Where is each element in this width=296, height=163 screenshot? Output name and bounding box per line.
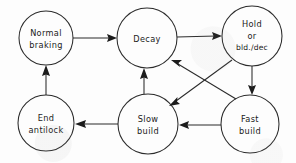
node-label-line-2: braking (29, 40, 62, 50)
arrow-head-icon (179, 121, 189, 129)
node-label-line-2: build (137, 126, 159, 136)
edge-normal-braking-to-decay (73, 34, 117, 42)
node-label-line-1: Fast (241, 114, 259, 124)
edge-hold-to-fast-build (248, 66, 256, 95)
arrow-head-icon (248, 85, 256, 95)
node-slow-build[interactable]: Slow build (118, 94, 178, 154)
arrow-head-icon (212, 32, 222, 40)
node-end-antilock[interactable]: End antilock (18, 95, 74, 151)
node-label-line-1: End (38, 113, 55, 123)
edge-end-antilock-to-normal-braking (42, 65, 50, 95)
state-diagram-svg: Normal braking Decay Hold or bld./dec En… (0, 0, 296, 163)
state-diagram-canvas: Normal braking Decay Hold or bld./dec En… (0, 0, 296, 163)
arrow-head-icon (42, 65, 50, 76)
arrow-head-icon (107, 34, 117, 42)
node-label-line-2: build (239, 126, 261, 136)
edge-fast-build-to-decay (171, 60, 236, 99)
node-label-line-1: Hold (242, 19, 262, 29)
edge-fast-build-to-slow-build (179, 121, 221, 129)
node-hold-or-bld-dec[interactable]: Hold or bld./dec (222, 6, 282, 66)
node-normal-braking[interactable]: Normal braking (19, 11, 73, 65)
edge-slow-build-to-end-antilock (75, 120, 118, 128)
arrow-head-icon (140, 68, 148, 79)
node-label-line-1: Normal (30, 28, 62, 38)
edge-decay-to-hold (177, 32, 222, 40)
node-label-line-2: or (247, 31, 256, 41)
edge-hold-to-slow-build (169, 60, 232, 106)
node-circle[interactable] (221, 95, 279, 153)
node-circle[interactable] (19, 11, 73, 65)
edge-line (176, 60, 232, 101)
node-decay[interactable]: Decay (117, 8, 177, 68)
node-fast-build[interactable]: Fast build (221, 95, 279, 153)
node-label-line-3: bld./dec (236, 43, 268, 52)
node-label-line-2: antilock (28, 125, 63, 135)
node-label-line-1: Slow (138, 114, 159, 124)
node-label-line-1: Decay (133, 34, 160, 44)
arrow-head-icon (75, 120, 86, 128)
edge-slow-build-to-decay (140, 68, 148, 94)
node-circle[interactable] (18, 95, 74, 151)
node-circle[interactable] (118, 94, 178, 154)
edge-line (177, 36, 216, 37)
